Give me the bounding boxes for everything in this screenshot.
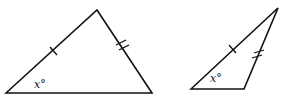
angle-label: x° <box>34 78 46 91</box>
left-triangle: x° <box>6 10 152 93</box>
right-triangle-outline <box>191 8 278 89</box>
left-triangle-outline <box>6 10 152 93</box>
geometry-diagram: x° x° <box>0 0 283 100</box>
angle-label: x° <box>210 72 222 85</box>
right-triangle: x° <box>191 8 278 89</box>
